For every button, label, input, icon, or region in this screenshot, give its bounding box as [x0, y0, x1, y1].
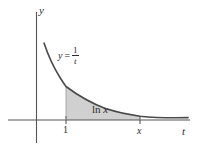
- y-axis-label: y: [39, 5, 44, 16]
- curve-label-y: y: [58, 51, 62, 61]
- region-label-variable: x: [103, 103, 108, 115]
- curve-label-equals: =: [64, 51, 71, 61]
- fraction-denominator: t: [73, 56, 78, 66]
- t-axis-label: t: [182, 126, 185, 137]
- fraction-numerator: 1: [72, 46, 79, 56]
- figure-canvas: y t 1 x ln x y=1t: [0, 0, 197, 151]
- curve-equation-label: y=1t: [58, 46, 79, 66]
- curve-label-fraction: 1t: [72, 46, 79, 66]
- tick-label-one: 1: [63, 125, 68, 135]
- graph-svg: [0, 0, 197, 151]
- shaded-region-label: ln x: [92, 104, 108, 115]
- tick-label-x: x: [137, 126, 141, 136]
- region-label-function: ln: [92, 103, 101, 115]
